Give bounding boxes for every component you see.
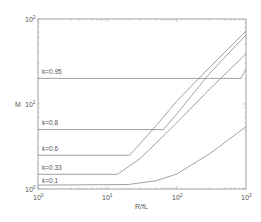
chart: k=0.95 k=0.8 k=0.6 k=0.33 k=0.1 100 101 … xyxy=(0,0,261,222)
axis-ticks xyxy=(38,19,246,189)
x-tick-label-3: 103 xyxy=(241,192,252,201)
curve-label-k08: k=0.8 xyxy=(42,119,58,126)
plot-frame xyxy=(38,19,246,189)
x-axis-title: R/fL xyxy=(135,203,148,210)
y-axis-labels: 100 101 102 M xyxy=(15,14,36,193)
curve-labels: k=0.95 k=0.8 k=0.6 k=0.33 k=0.1 xyxy=(42,68,62,184)
y-tick-label-2: 102 xyxy=(25,14,36,23)
curve-k033 xyxy=(38,54,246,175)
curve-label-k01: k=0.1 xyxy=(42,177,58,184)
curve-k08 xyxy=(38,35,246,130)
curve-label-k033: k=0.33 xyxy=(42,164,62,171)
x-tick-label-0: 100 xyxy=(33,192,44,201)
curve-k095 xyxy=(38,69,246,79)
y-tick-label-0: 100 xyxy=(25,184,36,193)
x-tick-label-1: 101 xyxy=(102,192,113,201)
x-axis-labels: 100 101 102 103 R/fL xyxy=(33,192,252,210)
plot-area xyxy=(38,19,246,189)
curve-k01 xyxy=(38,127,246,185)
y-axis-title: M xyxy=(15,101,21,108)
curve-label-k06: k=0.6 xyxy=(42,145,58,152)
curve-label-k095: k=0.95 xyxy=(42,68,62,75)
x-tick-label-2: 102 xyxy=(172,192,183,201)
curve-k06 xyxy=(38,31,246,155)
data-curves xyxy=(38,31,246,185)
y-tick-label-1: 101 xyxy=(25,99,36,108)
